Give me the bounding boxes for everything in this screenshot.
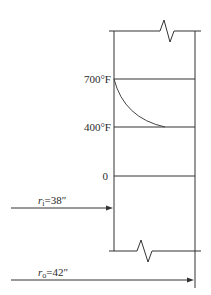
- r-outer-arrowhead-icon: [187, 278, 194, 283]
- r-outer-label: ro=42″: [38, 266, 68, 280]
- temperature-profile-curve: [114, 79, 165, 127]
- pipe-wall-diagram: 700°F 400°F 0 ri=38″ ro=42″: [0, 0, 211, 295]
- temp-400-label: 400°F: [84, 121, 111, 133]
- zero-label: 0: [103, 170, 109, 182]
- r-inner-arrowhead-icon: [106, 206, 113, 211]
- r-inner-label: ri=38″: [38, 194, 66, 208]
- r-outer-value: =42″: [46, 266, 68, 278]
- r-inner-value: =38″: [45, 194, 67, 206]
- bottom-break-line: [109, 240, 201, 262]
- top-break-line: [109, 20, 201, 42]
- temp-700-label: 700°F: [84, 73, 111, 85]
